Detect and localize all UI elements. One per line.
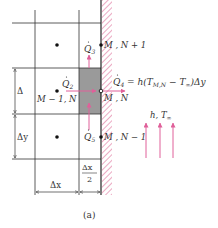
dimension-label-delta-y: Δy — [17, 132, 28, 142]
node-dot-lower-right — [99, 135, 103, 139]
convection-label: h, T∞ — [150, 110, 172, 121]
svg-text:Q4 = h(TM,N − T∞)Δy: Q4 = h(TM,N − T∞)Δy — [113, 77, 206, 88]
node-dot-lower-left — [55, 135, 59, 139]
svg-text:2: 2 — [87, 175, 92, 184]
svg-text:Q3: Q3 — [84, 44, 95, 55]
node-label-upper-right: M , N + 1 — [103, 40, 146, 50]
node-label-lower-right: M , N − 1 — [103, 132, 146, 142]
figure-caption: (a) — [83, 210, 95, 220]
node-label-left: M − 1, N — [36, 94, 77, 104]
node-dot-upper-right — [99, 43, 103, 47]
dimension-label-delta-x: Δx — [50, 180, 61, 190]
node-dot-left — [55, 89, 59, 93]
dimension-label-delta-top: Δ — [17, 86, 23, 96]
q2-label: Q2 — [62, 76, 73, 90]
q5-label: Q5 — [84, 129, 95, 143]
node-dot-center — [99, 89, 103, 93]
node-label-center: M , N — [103, 93, 129, 103]
svg-text:Δx: Δx — [82, 163, 93, 172]
dimension-label-half-delta-x: Δx 2 — [82, 163, 97, 184]
svg-text:Q5: Q5 — [84, 132, 95, 143]
finite-difference-boundary-node-diagram: Q3 Q2 Q5 Q4 = h(TM,N − T∞)Δy M , N + 1 M… — [0, 0, 218, 228]
node-dot-upper-left — [55, 43, 59, 47]
svg-text:Q2: Q2 — [62, 79, 73, 90]
q4-equation: Q4 = h(TM,N − T∞)Δy — [113, 74, 206, 88]
q3-label: Q3 — [84, 41, 95, 55]
